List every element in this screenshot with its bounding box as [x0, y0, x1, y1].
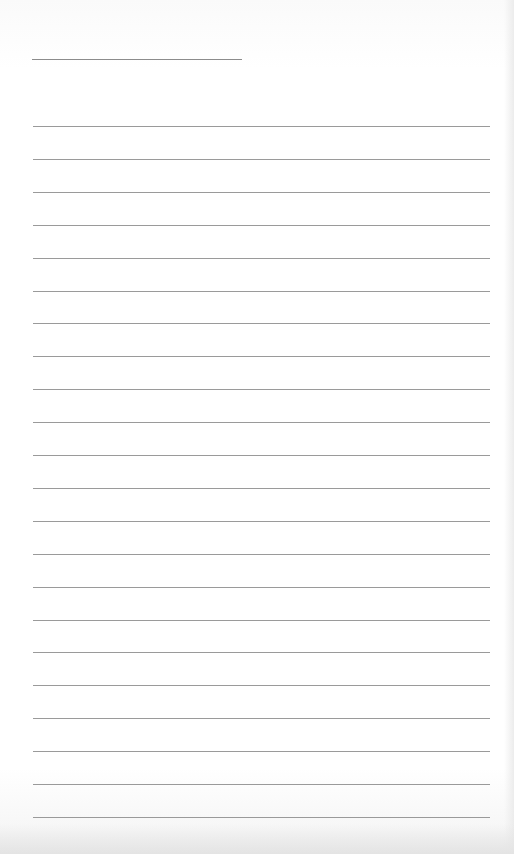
ruled-line	[33, 554, 490, 555]
page-edge-shadow-bottom	[0, 824, 514, 854]
ruled-line	[33, 126, 490, 127]
ruled-line	[33, 784, 490, 785]
ruled-line	[33, 192, 490, 193]
ruled-line	[33, 587, 490, 588]
ruled-line	[33, 225, 490, 226]
ruled-line	[33, 323, 490, 324]
ruled-line	[33, 652, 490, 653]
ruled-line	[33, 291, 490, 292]
title-underline	[32, 59, 242, 60]
ruled-line	[33, 718, 490, 719]
ruled-line	[33, 685, 490, 686]
ruled-line	[33, 422, 490, 423]
ruled-line	[33, 455, 490, 456]
ruled-line	[33, 356, 490, 357]
page-edge-shadow-right	[504, 0, 514, 854]
lined-page	[0, 0, 514, 854]
ruled-line	[33, 258, 490, 259]
ruled-line	[33, 817, 490, 818]
ruled-line	[33, 488, 490, 489]
ruled-line	[33, 389, 490, 390]
ruled-line	[33, 751, 490, 752]
ruled-line	[33, 521, 490, 522]
ruled-line	[33, 159, 490, 160]
ruled-line	[33, 620, 490, 621]
